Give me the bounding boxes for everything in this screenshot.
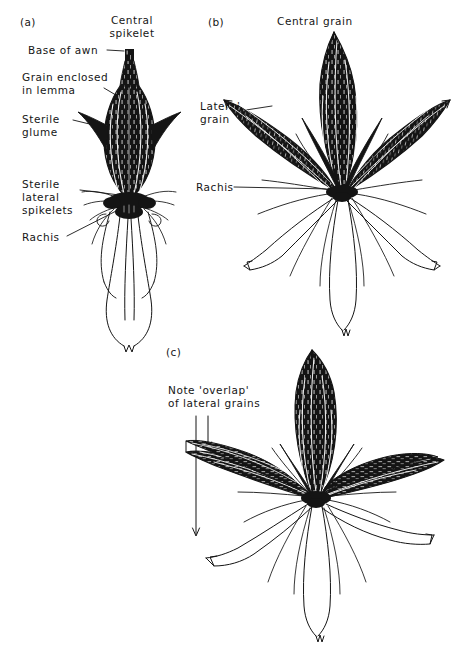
label-sterile-lateral-spikelets: Sterile lateral spikelets [22, 178, 73, 217]
panel-c-tag: (c) [166, 346, 181, 358]
label-lateral-grain: Lateral grain [200, 100, 240, 126]
figure-artwork [0, 0, 465, 647]
label-sterile-glume: Sterile glume [22, 113, 60, 139]
label-central-spikelet: Central spikelet [104, 14, 160, 40]
label-rachis-b: Rachis [196, 181, 234, 194]
botanical-figure: (a) Central spikelet Base of awn Grain e… [0, 0, 465, 647]
overlap-arrows [193, 416, 212, 536]
label-note-overlap: Note 'overlap' of lateral grains [168, 384, 260, 410]
panel-b-tag: (b) [208, 16, 224, 28]
leader-lines-b [234, 106, 330, 189]
label-central-grain: Central grain [277, 15, 353, 28]
panel-a-tag: (a) [20, 16, 36, 28]
specimen-b [224, 32, 450, 336]
label-grain-enclosed-in-lemma: Grain enclosed in lemma [22, 71, 108, 97]
label-base-of-awn: Base of awn [28, 44, 98, 57]
label-rachis-a: Rachis [22, 231, 60, 244]
